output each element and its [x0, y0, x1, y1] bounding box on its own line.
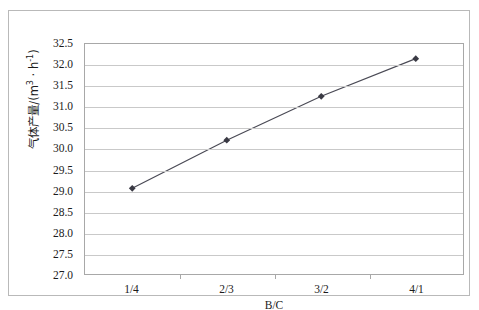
y-tick-label: 28.0	[53, 227, 73, 239]
gridline	[85, 234, 463, 235]
x-axis-tick-labels: 1/42/33/24/1	[84, 283, 464, 299]
figure-outer-frame: 27.027.528.028.529.029.530.030.531.031.5…	[8, 10, 470, 296]
series-line	[132, 59, 416, 189]
x-tick-mark	[180, 274, 181, 279]
data-point-marker	[412, 55, 419, 62]
data-point-marker	[129, 185, 136, 192]
x-axis-title: B/C	[84, 299, 464, 310]
gridline	[85, 86, 463, 87]
gridline	[85, 65, 463, 66]
y-tick-label: 28.5	[53, 206, 73, 218]
y-axis-title-sup-cubic: 3	[26, 80, 35, 85]
x-tick-label: 2/3	[219, 283, 234, 295]
x-tick-mark	[275, 274, 276, 279]
plot-area	[84, 43, 464, 275]
gridline	[85, 171, 463, 172]
x-tick-mark	[370, 274, 371, 279]
y-tick-label: 29.5	[53, 164, 73, 176]
chart-figure: 27.027.528.028.529.029.530.030.531.031.5…	[0, 0, 479, 310]
y-tick-label: 31.5	[53, 79, 73, 91]
y-tick-label: 31.0	[53, 100, 73, 112]
gridline	[85, 213, 463, 214]
y-tick-label: 30.5	[53, 121, 73, 133]
x-tick-label: 1/4	[124, 283, 139, 295]
gridline	[85, 107, 463, 108]
gridline	[85, 128, 463, 129]
y-tick-label: 27.5	[53, 248, 73, 260]
gridline	[85, 192, 463, 193]
y-axis-title-tail: )	[27, 49, 41, 54]
y-axis-title-sup-inverse: -1	[26, 54, 35, 62]
y-axis-title-main: 气体产量/(m	[27, 85, 41, 149]
y-tick-label: 30.0	[53, 142, 73, 154]
y-axis-tick-labels: 27.027.528.028.529.029.530.030.531.031.5…	[9, 43, 79, 275]
data-point-marker	[318, 93, 325, 100]
y-tick-label: 29.0	[53, 185, 73, 197]
x-tick-label: 4/1	[409, 283, 424, 295]
gridline	[85, 149, 463, 150]
series-line-and-markers	[85, 44, 463, 274]
x-tick-label: 3/2	[314, 283, 329, 295]
y-axis-title: 气体产量/(m3 · h-1)	[25, 0, 41, 199]
data-point-marker	[223, 137, 230, 144]
y-tick-label: 32.0	[53, 58, 73, 70]
gridline	[85, 255, 463, 256]
y-tick-label: 32.5	[53, 37, 73, 49]
y-tick-label: 27.0	[53, 269, 73, 281]
y-axis-title-mid: · h	[27, 62, 41, 80]
